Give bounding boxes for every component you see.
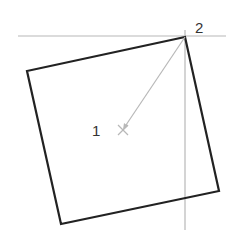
point-1-label: 1 — [92, 122, 100, 139]
rotate-diagram: 1 2 — [0, 0, 242, 247]
center-cross-icon — [118, 125, 128, 135]
rotation-arrow-line — [124, 37, 185, 128]
point-2-label: 2 — [195, 19, 203, 36]
